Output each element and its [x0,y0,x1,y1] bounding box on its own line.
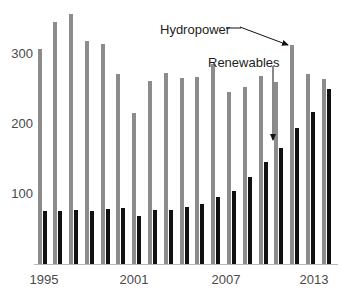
bar-renewables-1996 [58,211,62,264]
bar-renewables-2010 [279,148,283,265]
x-tick-2007: 2007 [212,272,241,287]
bar-hydropower-2001 [132,113,136,264]
bar-renewables-2003 [169,210,173,264]
bar-hydropower-2006 [211,64,215,264]
bar-renewables-2012 [311,112,315,264]
bar-hydropower-1999 [101,44,105,264]
bar-renewables-2009 [264,162,268,264]
bar-hydropower-1998 [85,41,89,264]
bar-hydropower-2000 [116,74,120,264]
bar-hydropower-2005 [195,77,199,264]
x-tick-2001: 2001 [120,272,149,287]
bar-renewables-2011 [295,128,299,264]
bar-hydropower-2004 [180,78,184,264]
bar-hydropower-2008 [243,87,247,265]
y-tick-100: 100 [11,186,33,201]
y-tick-300: 300 [11,46,33,61]
bar-hydropower-1997 [69,14,73,264]
bar-renewables-2006 [216,197,220,264]
bar-hydropower-2012 [306,74,310,264]
bar-renewables-1997 [74,210,78,264]
bar-hydropower-1996 [53,22,57,264]
bar-renewables-2001 [137,216,141,265]
x-axis-line [34,264,338,265]
bar-hydropower-2010 [274,82,278,264]
bar-renewables-1998 [90,211,94,264]
y-tick-200: 200 [11,116,33,131]
y-axis-labels: 300 200 100 [0,0,33,298]
bar-hydropower-2002 [148,81,152,264]
bar-hydropower-2003 [164,73,168,264]
bar-hydropower-2011 [290,45,294,264]
bar-hydropower-2009 [259,76,263,264]
bar-renewables-1999 [106,209,110,264]
bar-hydropower-1995 [38,49,42,264]
bar-renewables-2002 [153,210,157,264]
bar-renewables-2000 [121,208,125,264]
bar-renewables-2005 [200,204,204,264]
annotation-label-hydropower: Hydropower [160,22,230,37]
bar-renewables-2007 [232,191,236,264]
bar-renewables-2013 [327,89,331,264]
bar-hydropower-2007 [227,92,231,264]
bar-renewables-2008 [248,177,252,264]
bar-hydropower-2013 [322,79,326,264]
x-tick-1995: 1995 [30,272,59,287]
bar-renewables-1995 [43,211,47,264]
annotation-label-renewables: Renewables [208,55,280,70]
bar-renewables-2004 [185,207,189,264]
plot-area [36,4,336,264]
x-tick-2013: 2013 [300,272,329,287]
bar-chart-figure: 300 200 100 1995 2001 2007 2013 Hydropow… [0,0,341,298]
